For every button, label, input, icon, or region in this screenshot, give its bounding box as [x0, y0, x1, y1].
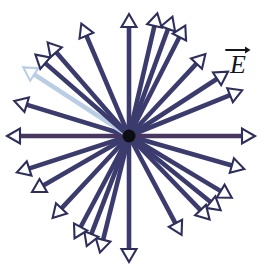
field-line-arrowhead — [230, 158, 245, 172]
field-line-arrowhead — [7, 129, 20, 144]
field-line-arrowhead — [242, 129, 255, 144]
field-line-arrowhead — [161, 17, 175, 32]
field-line-arrowhead — [14, 98, 29, 112]
field-line-arrowhead — [227, 88, 242, 102]
field-line-arrowhead — [96, 238, 111, 252]
field-line-arrowhead — [122, 14, 137, 27]
field-line-arrowhead — [17, 161, 32, 175]
point-charge-dot — [123, 130, 136, 143]
field-line-arrowhead — [80, 24, 94, 39]
field-line-arrowhead — [147, 13, 162, 27]
field-lines-diagram — [0, 0, 270, 278]
electric-field-figure: E — [0, 0, 270, 278]
field-line-arrowhead — [122, 249, 137, 262]
field-line-arrowhead — [84, 231, 98, 246]
